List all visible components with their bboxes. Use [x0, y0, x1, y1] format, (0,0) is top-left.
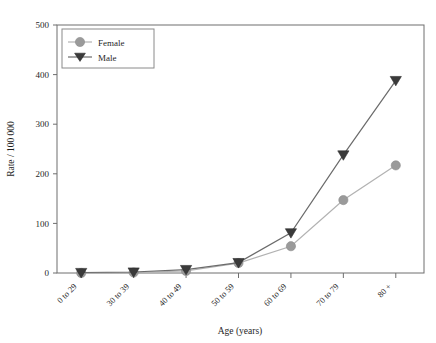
y-axis-title: Rate / 100 000: [6, 121, 16, 177]
y-tick-label: 500: [36, 20, 50, 30]
legend-label-female: Female: [98, 38, 125, 48]
legend: Female Male: [62, 29, 154, 68]
x-axis: 0 to 2930 to 3940 to 4950 to 5960 to 697…: [55, 273, 396, 308]
x-tick-label: 40 to 49: [157, 281, 184, 308]
y-tick-label: 200: [36, 169, 50, 179]
y-tick-label: 400: [36, 70, 50, 80]
y-axis: 0100200300400500: [36, 20, 58, 278]
x-tick-label: 60 to 69: [262, 281, 289, 308]
legend-label-male: Male: [98, 53, 117, 63]
y-tick-label: 0: [45, 268, 50, 278]
legend-marker-female-icon: [75, 37, 84, 46]
chart-figure: 0100200300400500 0 to 2930 to 3940 to 49…: [0, 0, 436, 343]
data-point-female: [391, 161, 400, 170]
x-tick-label: 30 to 39: [104, 281, 131, 308]
x-axis-title: Age (years): [218, 326, 263, 337]
x-tick-label: 80 +: [375, 281, 393, 299]
data-point-female: [286, 242, 295, 251]
y-tick-label: 100: [36, 219, 50, 229]
x-tick-label: 50 to 59: [209, 281, 236, 308]
line-chart-svg: 0100200300400500 0 to 2930 to 3940 to 49…: [0, 0, 436, 343]
data-point-female: [339, 195, 348, 204]
x-tick-label: 0 to 29: [55, 281, 79, 305]
y-tick-label: 300: [36, 119, 50, 129]
x-tick-label: 70 to 79: [314, 281, 341, 308]
